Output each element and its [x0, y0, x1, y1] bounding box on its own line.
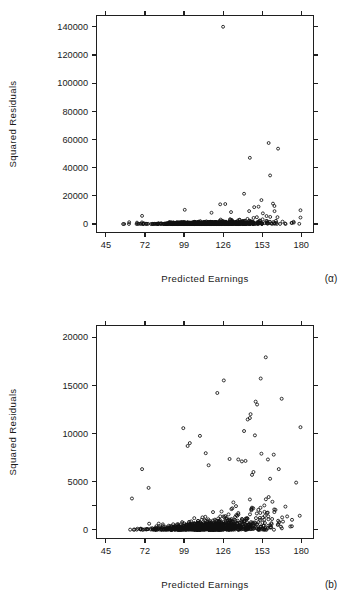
data-point: [141, 214, 144, 217]
x-tick-label: 72: [140, 240, 150, 250]
x-tick-label: 45: [101, 546, 111, 556]
y-axis-title: Squared Residuals: [7, 80, 18, 167]
data-point: [299, 216, 302, 219]
data-point: [248, 156, 251, 159]
data-point: [256, 403, 259, 406]
x-tick-label: 180: [294, 546, 309, 556]
data-point: [222, 379, 225, 382]
y-tick-label: 0: [83, 219, 88, 229]
data-point: [284, 505, 287, 508]
x-tick-label: 72: [140, 546, 150, 556]
residual-plot-panel-b: 45729912615318005000100001500020000Predi…: [0, 300, 362, 606]
data-point: [219, 203, 222, 206]
data-point: [273, 205, 276, 208]
panel-label: (α): [325, 273, 337, 284]
scatter-plot-b: 45729912615318005000100001500020000Predi…: [0, 300, 362, 606]
data-point: [210, 211, 213, 214]
data-point: [269, 215, 272, 218]
y-tick-label: 5000: [68, 477, 88, 487]
data-point: [246, 217, 249, 220]
data-point: [193, 517, 196, 520]
data-point: [259, 518, 262, 521]
data-point: [216, 391, 219, 394]
y-tick-label: 20000: [62, 332, 88, 342]
data-point: [267, 496, 270, 499]
data-point: [243, 430, 246, 433]
x-tick-label: 99: [179, 240, 189, 250]
data-point: [281, 520, 284, 523]
data-point: [298, 222, 301, 225]
data-point: [253, 206, 256, 209]
data-point: [259, 511, 262, 514]
data-point: [240, 460, 243, 463]
data-point: [263, 504, 266, 507]
data-point: [220, 510, 223, 513]
data-point: [260, 199, 263, 202]
y-tick-label: 20000: [62, 191, 88, 201]
plot-frame: [97, 326, 314, 539]
data-points-group: [129, 356, 302, 532]
x-tick-label: 153: [254, 546, 269, 556]
x-tick-label: 180: [294, 240, 309, 250]
data-point: [198, 434, 201, 437]
data-point: [272, 453, 275, 456]
data-point: [141, 468, 144, 471]
data-point: [269, 477, 272, 480]
data-point: [147, 486, 150, 489]
y-tick-label: 120000: [57, 50, 88, 60]
data-point: [273, 210, 276, 213]
data-point: [254, 517, 257, 520]
data-point: [224, 203, 227, 206]
y-tick-label: 60000: [62, 135, 88, 145]
data-point: [183, 208, 186, 211]
data-point: [186, 444, 189, 447]
data-point: [276, 216, 279, 219]
data-point: [188, 442, 191, 445]
data-point: [281, 516, 284, 519]
x-axis-title: Predicted Earnings: [161, 579, 248, 590]
x-tick-label: 153: [254, 240, 269, 250]
y-tick-label: 10000: [62, 429, 88, 439]
y-tick-label: 0: [83, 525, 88, 535]
data-point: [286, 515, 289, 518]
data-point: [212, 511, 215, 514]
data-point: [237, 458, 240, 461]
data-point: [207, 464, 210, 467]
data-point: [129, 528, 132, 531]
data-point: [253, 434, 256, 437]
data-point: [280, 397, 283, 400]
data-point: [298, 514, 301, 517]
data-point: [244, 459, 247, 462]
data-point: [291, 518, 294, 521]
data-point: [261, 212, 264, 215]
data-point: [232, 501, 235, 504]
data-point: [227, 513, 230, 516]
data-point: [295, 481, 298, 484]
x-tick-label: 126: [215, 240, 230, 250]
data-point: [264, 356, 267, 359]
data-point: [265, 215, 268, 218]
x-tick-label: 99: [179, 546, 189, 556]
data-points-group: [122, 25, 302, 225]
data-point: [243, 192, 246, 195]
data-point: [248, 498, 251, 501]
data-point: [204, 452, 207, 455]
y-tick-label: 15000: [62, 381, 88, 391]
data-point: [277, 468, 280, 471]
panel-label: (b): [325, 579, 337, 590]
data-point: [251, 473, 254, 476]
data-point: [271, 517, 274, 520]
data-point: [260, 452, 263, 455]
data-point: [222, 25, 225, 28]
data-point: [255, 216, 258, 219]
data-point: [248, 210, 251, 213]
data-point: [230, 211, 233, 214]
data-point: [182, 427, 185, 430]
data-point: [269, 174, 272, 177]
data-point: [255, 512, 258, 515]
x-axis-title: Predicted Earnings: [161, 273, 248, 284]
data-point: [257, 508, 260, 511]
y-tick-label: 40000: [62, 163, 88, 173]
scatter-plot-a: 4572991261531800200004000060000800001000…: [0, 0, 362, 300]
data-point: [279, 223, 282, 226]
